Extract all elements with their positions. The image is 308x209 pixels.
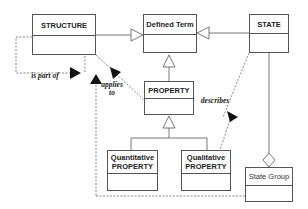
filled-arrow-icon: [70, 67, 81, 79]
class-property: PROPERTY: [144, 81, 194, 115]
generalization-structure-to-defined-term: [96, 29, 143, 41]
label-is-part-of: is part of: [25, 72, 65, 80]
label-describes: describes: [195, 97, 235, 105]
class-name: Quantitative PROPERTY: [108, 151, 157, 174]
hollow-triangle-icon: [131, 29, 143, 41]
hollow-triangle-icon: [197, 27, 209, 39]
class-quantitative-property: Quantitative PROPERTY: [107, 150, 158, 191]
class-state: STATE: [249, 14, 289, 53]
uml-diagram: STRUCTURE Defined Term STATE PROPERTY Qu…: [0, 0, 308, 209]
class-name-line2: PROPERTY: [112, 162, 153, 171]
class-name: State Group: [246, 168, 292, 186]
generalization-subproperties-to-property: [131, 116, 207, 150]
class-name-line2: PROPERTY: [185, 162, 226, 171]
class-qualitative-property: Qualitative PROPERTY: [181, 150, 231, 191]
class-name-line1: Qualitative: [187, 153, 225, 162]
class-name: Qualitative PROPERTY: [182, 151, 230, 174]
class-name: PROPERTY: [145, 82, 193, 99]
filled-arrow-icon: [227, 111, 238, 122]
class-name: STATE: [250, 15, 288, 34]
label-applies-to-line2: to: [100, 89, 124, 97]
hollow-diamond-icon: [263, 153, 275, 167]
class-name: Defined Term: [144, 15, 196, 35]
class-state-group: State Group: [245, 167, 293, 202]
class-defined-term: Defined Term: [143, 14, 197, 53]
class-structure: STRUCTURE: [32, 14, 96, 55]
aggregation-state-group: [263, 53, 275, 167]
class-name: STRUCTURE: [33, 15, 95, 36]
generalization-state-to-defined-term: [197, 27, 249, 39]
generalization-property-to-defined-term: [163, 55, 175, 81]
class-name-line1: Quantitative: [111, 153, 154, 162]
hollow-triangle-icon: [163, 55, 175, 67]
hollow-triangle-icon: [163, 116, 175, 128]
label-applies-to: applies to: [100, 81, 124, 97]
